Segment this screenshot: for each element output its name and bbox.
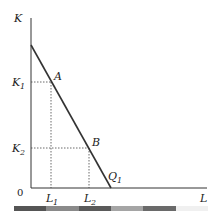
curve-label: Q 1	[108, 170, 122, 185]
isoquant-line	[31, 45, 111, 188]
isoquant-diagram: K L 0 A B Q 1 K 1 K 2 L 1 L 2	[0, 0, 217, 216]
color-swatch	[176, 206, 208, 211]
color-swatch	[111, 206, 143, 211]
color-swatch	[79, 206, 111, 211]
svg-text:2: 2	[19, 148, 25, 157]
y-axis-label: K	[13, 12, 23, 25]
origin-label: 0	[17, 187, 23, 198]
color-strip	[14, 206, 208, 211]
tick-k2: K 2	[11, 142, 25, 157]
tick-l1: L 1	[45, 192, 58, 207]
point-a-label: A	[53, 70, 62, 83]
tick-k1: K 1	[11, 76, 25, 91]
tick-l2: L 2	[83, 192, 96, 207]
point-b-label: B	[91, 136, 100, 149]
x-axis-label: L	[199, 192, 207, 205]
color-swatch	[143, 206, 175, 211]
svg-text:1: 1	[20, 82, 25, 91]
color-swatch	[46, 206, 78, 211]
color-swatch	[14, 206, 46, 211]
svg-text:1: 1	[117, 176, 122, 185]
svg-text:Q: Q	[108, 170, 117, 183]
